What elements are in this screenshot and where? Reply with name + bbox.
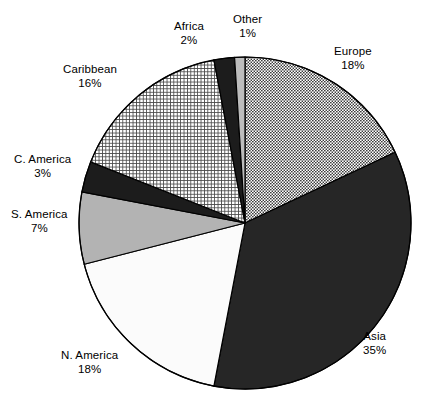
slice-label-s-america-name: S. America	[11, 207, 68, 221]
slice-label-c-america-value: 3%	[14, 166, 71, 180]
pie-chart: Europe 18% Asia 35% N. America 18% S. Am…	[0, 0, 430, 408]
slice-label-asia-name: Asia	[363, 329, 386, 343]
slice-label-other-name: Other	[233, 12, 262, 26]
slice-label-other-value: 1%	[233, 26, 262, 40]
slice-label-n-america-name: N. America	[61, 348, 118, 362]
slice-label-s-america: S. America 7%	[11, 207, 68, 235]
slice-label-caribbean-name: Caribbean	[63, 62, 117, 76]
slice-label-africa-value: 2%	[174, 33, 204, 47]
slice-label-n-america: N. America 18%	[61, 348, 118, 376]
pie-slices-group	[79, 57, 411, 389]
slice-label-europe-value: 18%	[334, 58, 372, 72]
slice-label-other: Other 1%	[233, 12, 262, 40]
slice-label-europe: Europe 18%	[334, 44, 372, 72]
slice-label-caribbean-value: 16%	[63, 76, 117, 90]
slice-label-c-america-name: C. America	[14, 152, 71, 166]
slice-label-n-america-value: 18%	[61, 362, 118, 376]
slice-label-africa: Africa 2%	[174, 19, 204, 47]
slice-label-c-america: C. America 3%	[14, 152, 71, 180]
slice-label-africa-name: Africa	[174, 19, 204, 33]
slice-label-asia-value: 35%	[363, 343, 386, 357]
slice-label-s-america-value: 7%	[11, 221, 68, 235]
slice-label-caribbean: Caribbean 16%	[63, 62, 117, 90]
slice-label-europe-name: Europe	[334, 44, 372, 58]
slice-label-asia: Asia 35%	[363, 329, 386, 357]
